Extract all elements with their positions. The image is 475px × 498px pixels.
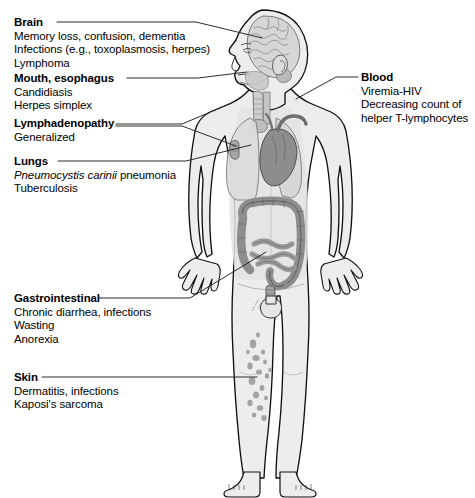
callout-blood-line-1: Viremia-HIV — [361, 85, 468, 99]
callout-mouth-esophagus: Mouth, esophagus Candidiasis Herpes simp… — [14, 72, 114, 113]
callout-mouth-title: Mouth, esophagus — [14, 72, 114, 86]
callout-gi-line-3: Anorexia — [14, 333, 151, 347]
callout-skin-title: Skin — [14, 371, 119, 385]
callout-brain: Brain Memory loss, confusion, dementia I… — [14, 16, 210, 70]
callout-blood-line-3: helper T-lymphocytes — [361, 112, 468, 126]
callout-skin-line-1: Dermatitis, infections — [14, 385, 119, 399]
callout-lungs-line-2: Tuberculosis — [14, 182, 176, 196]
foot-right — [280, 472, 316, 497]
callout-lungs-title: Lungs — [14, 155, 176, 169]
hand-left — [178, 258, 220, 294]
callout-blood: Blood Viremia-HIV Decreasing count of he… — [361, 71, 468, 125]
callout-blood-title: Blood — [361, 71, 468, 85]
callout-brain-title: Brain — [14, 16, 210, 30]
callout-brain-line-3: Lymphoma — [14, 57, 210, 71]
callout-blood-line-2: Decreasing count of — [361, 98, 468, 112]
anatomy-diagram: Brain Memory loss, confusion, dementia I… — [0, 0, 475, 498]
callout-mouth-line-2: Herpes simplex — [14, 99, 114, 113]
callout-brain-line-1: Memory loss, confusion, dementia — [14, 30, 210, 44]
leader-line-blood — [296, 77, 358, 99]
callout-gi-title: Gastrointestinal — [14, 292, 151, 306]
callout-skin: Skin Dermatitis, infections Kaposi's sar… — [14, 371, 119, 412]
callout-brain-line-2: Infections (e.g., toxoplasmosis, herpes) — [14, 43, 210, 57]
ear — [273, 55, 288, 75]
penis — [266, 296, 276, 304]
foot-left — [224, 472, 260, 497]
callout-lungs-line-1: Pneumocystis carinii pneumonia — [14, 169, 176, 183]
trachea — [253, 91, 263, 123]
hand-right — [321, 258, 363, 294]
callout-skin-line-2: Kaposi's sarcoma — [14, 398, 119, 412]
pathogen-name-roman: pneumonia — [117, 169, 176, 181]
leader-line-mouth — [127, 72, 247, 78]
callout-mouth-line-1: Candidiasis — [14, 86, 114, 100]
pathogen-name-italic: Pneumocystis carinii — [14, 169, 117, 181]
callout-gastrointestinal: Gastrointestinal Chronic diarrhea, infec… — [14, 292, 151, 346]
callout-lymph-line-1: Generalized — [14, 131, 114, 145]
callout-gi-line-2: Wasting — [14, 319, 151, 333]
callout-lymphadenopathy: Lymphadenopathy Generalized — [14, 117, 114, 144]
callout-lymph-title: Lymphadenopathy — [14, 117, 114, 131]
callout-gi-line-1: Chronic diarrhea, infections — [14, 306, 151, 320]
callout-lungs: Lungs Pneumocystis carinii pneumonia Tub… — [14, 155, 176, 196]
